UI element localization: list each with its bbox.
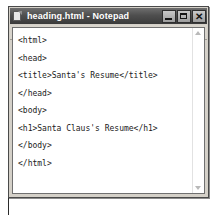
vertical-scrollbar[interactable] <box>192 28 204 193</box>
code-line: <h1>Santa Claus's Resume</h1> <box>18 120 192 138</box>
code-line: <html> <box>18 32 192 50</box>
minimize-icon <box>165 18 172 20</box>
maximize-button[interactable] <box>177 10 191 23</box>
code-line: <title>Santa's Resume</title> <box>18 67 192 85</box>
minimize-button[interactable] <box>162 10 176 23</box>
scroll-down-arrow-icon[interactable] <box>193 182 204 193</box>
scrollbar-track[interactable] <box>193 39 204 182</box>
notepad-document-icon <box>12 11 23 22</box>
close-button[interactable]: ✕ <box>192 10 206 23</box>
code-line: <body> <box>18 102 192 120</box>
screenshot-root: heading.html - Notepad ✕ File Edit Forma… <box>0 0 217 215</box>
maximize-icon <box>180 13 187 19</box>
code-line: </body> <box>18 137 192 155</box>
window-controls: ✕ <box>162 10 206 23</box>
close-icon: ✕ <box>193 11 205 22</box>
text-editor[interactable]: <html> <head> <title>Santa's Resume</tit… <box>13 28 192 193</box>
notepad-window: heading.html - Notepad ✕ File Edit Forma… <box>8 6 209 198</box>
code-line: <head> <box>18 50 192 68</box>
scroll-up-arrow-icon[interactable] <box>193 28 204 39</box>
title-bar[interactable]: heading.html - Notepad ✕ <box>10 8 207 24</box>
code-line: </html> <box>18 155 192 173</box>
window-title: heading.html - Notepad <box>27 12 129 21</box>
editor-area: <html> <head> <title>Santa's Resume</tit… <box>12 27 205 194</box>
code-line: </head> <box>18 85 192 103</box>
